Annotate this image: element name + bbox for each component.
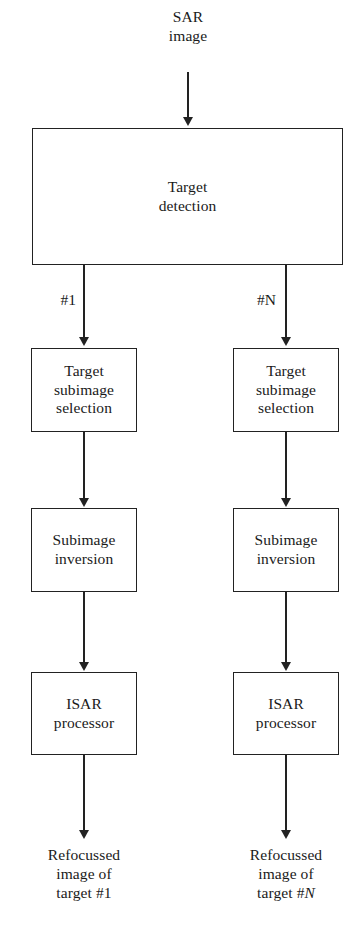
right-connector-2 — [285, 592, 286, 664]
left-output-line3-index: 1 — [104, 884, 112, 901]
left-target-subimage-selection-box[interactable]: Target subimage selection — [31, 348, 137, 432]
branch-line-right — [285, 265, 286, 338]
branch-label-right-index: N — [265, 291, 276, 308]
right-arrowhead-3 — [281, 830, 291, 839]
arrowhead-input-to-detection — [183, 117, 193, 126]
branch-label-left: #1 — [28, 292, 76, 308]
left-connector-3 — [83, 755, 84, 833]
right-output-line3-prefix: target # — [257, 884, 304, 901]
left-subimage-inversion-box[interactable]: Subimage inversion — [31, 508, 137, 592]
right-arrowhead-2 — [281, 662, 291, 671]
arrowhead-branch-right — [281, 337, 291, 346]
arrowhead-branch-left — [79, 337, 89, 346]
target-detection-box[interactable]: Target detection — [32, 128, 343, 265]
left-connector-2 — [83, 592, 84, 664]
right-target-subimage-selection-box[interactable]: Target subimage selection — [233, 348, 339, 432]
branch-line-left — [83, 265, 84, 338]
connector-input-to-detection — [187, 72, 188, 118]
right-isar-processor-box[interactable]: ISAR processor — [233, 672, 339, 755]
right-output-line2: image of — [258, 865, 313, 882]
left-output-line2: image of — [56, 865, 111, 882]
left-output-line3-prefix: target # — [56, 884, 103, 901]
left-output-label: Refocussedimage oftarget #1 — [24, 846, 144, 903]
flowchart-canvas: SAR image Target detection #1 #N Target … — [0, 0, 364, 949]
left-connector-1 — [83, 432, 84, 500]
branch-label-right: #N — [228, 292, 276, 308]
input-label: SAR image — [128, 8, 248, 46]
left-isar-processor-box[interactable]: ISAR processor — [31, 672, 137, 755]
left-arrowhead-1 — [79, 498, 89, 507]
left-output-line1: Refocussed — [48, 846, 120, 863]
branch-label-right-prefix: # — [257, 291, 265, 308]
right-arrowhead-1 — [281, 498, 291, 507]
left-arrowhead-2 — [79, 662, 89, 671]
right-subimage-inversion-box[interactable]: Subimage inversion — [233, 508, 339, 592]
right-output-line3-index: N — [304, 884, 314, 901]
left-arrowhead-3 — [79, 830, 89, 839]
right-output-label: Refocussedimage oftarget #N — [226, 846, 346, 903]
right-connector-1 — [285, 432, 286, 500]
right-connector-3 — [285, 755, 286, 833]
right-output-line1: Refocussed — [250, 846, 322, 863]
